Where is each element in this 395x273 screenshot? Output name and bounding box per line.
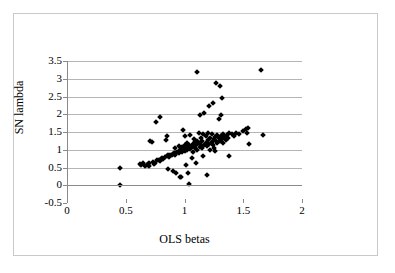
y-tick-mark <box>63 97 67 98</box>
scatter-point <box>217 83 223 89</box>
y-tick-label: 2 <box>57 108 63 119</box>
y-tick-label: 1 <box>57 144 63 155</box>
y-axis-line <box>67 61 68 203</box>
x-tick-mark <box>126 199 127 203</box>
x-tick-mark <box>185 199 186 203</box>
y-axis-title: SN lambda <box>12 53 27 163</box>
x-tick-label: 1 <box>165 205 205 216</box>
x-tick-mark <box>302 199 303 203</box>
x-tick-mark <box>67 199 68 203</box>
y-tick-label: 0 <box>57 179 63 190</box>
gridline <box>67 114 302 115</box>
scatter-point <box>246 142 252 148</box>
scatter-point <box>185 170 191 176</box>
scatter-point <box>195 70 201 76</box>
y-tick-mark <box>63 132 67 133</box>
y-tick-label: 2.5 <box>48 91 62 102</box>
scatter-point <box>244 130 250 136</box>
x-tick-mark <box>243 199 244 203</box>
y-tick-labels-group: -0.500.511.522.533.5 <box>32 0 62 273</box>
gridline <box>67 61 302 62</box>
x-tick-label: 0.5 <box>106 205 146 216</box>
x-axis-title: OLS betas <box>67 232 302 247</box>
scatter-point <box>210 100 216 106</box>
y-tick-mark <box>63 114 67 115</box>
scatter-point <box>204 172 210 178</box>
scatter-point <box>236 132 242 138</box>
y-tick-mark <box>63 185 67 186</box>
scatter-point <box>200 153 206 159</box>
y-tick-label: 3 <box>57 73 63 84</box>
scatter-point <box>226 153 232 159</box>
scatter-point <box>153 119 159 125</box>
gridline <box>67 97 302 98</box>
gridline <box>67 79 302 80</box>
y-tick-mark <box>63 168 67 169</box>
y-tick-mark <box>63 150 67 151</box>
y-tick-label: 0.5 <box>48 162 62 173</box>
scatter-point <box>258 67 264 73</box>
y-tick-mark <box>63 61 67 62</box>
scatter-point <box>193 160 199 166</box>
x-tick-label: 1.5 <box>223 205 263 216</box>
x-tick-label: 2 <box>282 205 322 216</box>
scatter-point <box>117 165 123 171</box>
x-tick-label: 0 <box>47 205 87 216</box>
gridline <box>67 168 302 169</box>
y-tick-label: 1.5 <box>48 126 62 137</box>
y-tick-label: 3.5 <box>48 55 62 66</box>
y-tick-mark <box>63 79 67 80</box>
figure-canvas: -0.500.511.522.533.5 00.511.52 OLS betas… <box>0 0 395 273</box>
scatter-point <box>189 155 195 161</box>
scatter-point <box>164 133 170 139</box>
x-axis-line <box>67 185 302 186</box>
plot-area <box>67 61 302 203</box>
